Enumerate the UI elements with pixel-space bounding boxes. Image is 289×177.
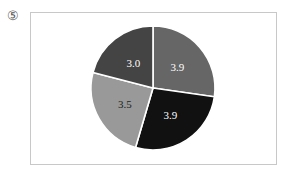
slice-label: 3.0	[126, 57, 140, 69]
pie-chart: 3.93.93.53.0	[0, 0, 289, 177]
slice-label: 3.9	[170, 61, 184, 73]
slice-label: 3.9	[164, 109, 178, 121]
slice-label: 3.5	[118, 98, 132, 110]
